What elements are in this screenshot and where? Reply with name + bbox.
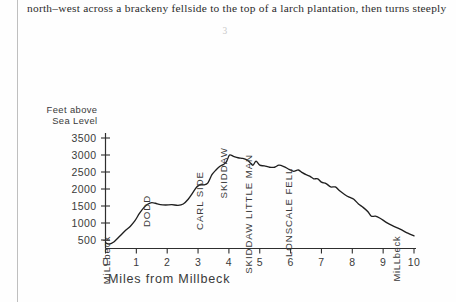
peak-label-skiddaw-little-man: SKIDDAW LITTLE MAN	[243, 154, 254, 274]
y-tick-label-2000: 2000	[72, 183, 97, 195]
x-tick-label-9: 9	[380, 256, 386, 268]
y-tick-label-1500: 1500	[72, 200, 97, 212]
y-axis-title-line2: Sea Level	[52, 115, 97, 126]
y-tick-label-3000: 3000	[72, 149, 97, 161]
x-axis-title: Miles from Millbeck	[108, 272, 230, 286]
y-tick-label-3500: 3500	[72, 132, 97, 144]
x-tick-label-3: 3	[195, 256, 201, 268]
y-tick-label-2500: 2500	[72, 166, 97, 178]
x-tick-label-1: 1	[133, 256, 139, 268]
x-tick-label-5: 5	[257, 256, 263, 268]
elevation-profile-chart: 500100015002000250030003500Feet aboveSea…	[0, 0, 456, 302]
endpoint-label-millbeck-right: MiLLbeck	[391, 236, 402, 282]
book-page: north–west across a brackeny fellside to…	[0, 0, 456, 302]
y-tick-label-1000: 1000	[72, 217, 97, 229]
peak-label-skiddaw: SKIDDAW	[218, 147, 229, 198]
peak-label-millbeck: MiLLbeck	[101, 236, 112, 285]
y-tick-label-500: 500	[78, 234, 97, 246]
x-tick-label-2: 2	[164, 256, 170, 268]
x-tick-label-7: 7	[318, 256, 324, 268]
peak-label-carl-side: CARL SIDE	[194, 171, 205, 230]
x-tick-label-10: 10	[408, 256, 420, 268]
x-tick-label-8: 8	[349, 256, 355, 268]
x-tick-label-4: 4	[226, 256, 232, 268]
y-axis-title-line1: Feet above	[47, 104, 98, 115]
peak-label-dodd: DODD	[141, 195, 152, 227]
peak-label-lonscale-fell: LONSCALE FELL	[283, 168, 294, 257]
